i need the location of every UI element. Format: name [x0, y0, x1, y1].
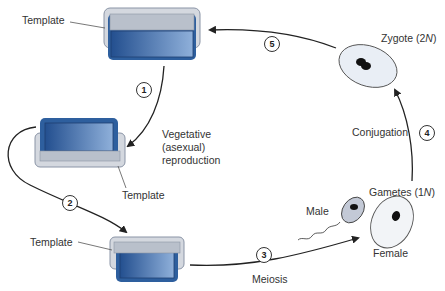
organism-middle	[35, 118, 125, 167]
arrow-step-1	[128, 66, 164, 146]
flagellum	[298, 222, 340, 240]
organism-top	[104, 8, 200, 60]
label-vegetative-1: Vegetative	[162, 128, 211, 140]
template-top-leader	[70, 22, 105, 28]
label-template-top: Template	[22, 14, 65, 26]
label-template-mid: Template	[122, 189, 165, 201]
female-gamete	[362, 189, 421, 255]
template-mid-leader	[118, 166, 126, 188]
step-1-badge: 1	[136, 82, 152, 98]
step-2-badge: 2	[62, 195, 78, 211]
label-conjugation: Conjugation	[352, 126, 408, 138]
template-bottom-leader	[78, 242, 112, 250]
label-vegetative-2: (asexual)	[162, 141, 205, 153]
step-5-badge: 5	[264, 36, 280, 52]
step-3-badge: 3	[256, 247, 272, 263]
zygote-cell	[333, 37, 403, 95]
arrow-step-3	[190, 238, 358, 265]
label-gametes: Gametes (1N)	[369, 186, 435, 198]
label-meiosis: Meiosis	[252, 273, 288, 285]
label-vegetative-3: reproduction	[162, 154, 220, 166]
organism-bottom	[110, 237, 184, 282]
label-zygote: Zygote (2N)	[381, 32, 436, 44]
label-female: Female	[373, 247, 408, 259]
label-male: Male	[306, 205, 329, 217]
label-template-bottom: Template	[30, 236, 73, 248]
step-4-badge: 4	[419, 125, 435, 141]
